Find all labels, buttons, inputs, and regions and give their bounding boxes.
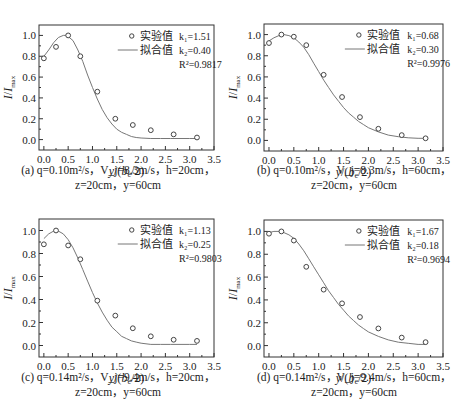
param-k2: k₂=0.30 xyxy=(407,44,439,55)
y-tick-label: 0.6 xyxy=(22,71,36,83)
legend-marker-icon xyxy=(357,33,361,37)
data-point-marker xyxy=(321,72,326,77)
param-k2: k₂=0.25 xyxy=(179,239,211,250)
legend-line-label: 拟合值 xyxy=(140,237,173,250)
data-point-marker xyxy=(399,133,404,138)
caption-b-line2: z=20cm，y=60cm xyxy=(236,178,472,193)
legend-marker-icon xyxy=(357,229,361,233)
y-tick-label: 0.2 xyxy=(247,317,261,329)
chart-panel-a: 0.00.51.01.52.02.53.03.50.00.20.40.60.81… xyxy=(1,25,222,179)
data-point-marker xyxy=(195,339,200,344)
data-point-marker xyxy=(78,54,83,59)
data-point-marker xyxy=(304,43,309,48)
y-tick-label: 1.0 xyxy=(247,225,261,237)
data-point-marker xyxy=(376,326,381,331)
data-point-marker xyxy=(291,238,296,243)
legend-points-label: 实验值 xyxy=(140,223,173,236)
param-r2: R²=0.9817 xyxy=(179,59,222,70)
data-point-marker xyxy=(148,128,153,133)
y-tick-label: 0.6 xyxy=(22,271,36,283)
data-point-marker xyxy=(376,126,381,131)
y-tick-label: 0.2 xyxy=(22,317,36,329)
y-tick-label: 0.8 xyxy=(22,50,36,62)
y-tick-label: 1.0 xyxy=(22,29,36,41)
param-k1: k₁=1.13 xyxy=(179,225,211,236)
param-k2: k₂=0.40 xyxy=(179,45,211,56)
chart-panel-d: 0.00.51.01.52.02.53.03.50.00.20.40.60.81… xyxy=(226,220,450,386)
y-tick-label: 0.0 xyxy=(22,340,36,352)
fitted-curve xyxy=(269,35,426,139)
param-r2: R²=0.9976 xyxy=(407,58,450,69)
y-tick-label: 0.0 xyxy=(247,134,261,146)
y-tick-label: 0.0 xyxy=(22,134,36,146)
data-point-marker xyxy=(304,264,309,269)
caption-d-line1: (d) q=0.14m²/s，V_j=9.4m/s，h=60cm， xyxy=(236,370,472,385)
data-point-marker xyxy=(148,334,153,339)
data-point-marker xyxy=(130,123,135,128)
y-tick-label: 0.4 xyxy=(247,92,261,104)
y-tick-label: 0.0 xyxy=(247,340,261,352)
data-point-marker xyxy=(54,228,59,233)
data-point-marker xyxy=(130,326,135,331)
y-axis-label: I/Imax xyxy=(1,276,17,301)
y-tick-label: 0.6 xyxy=(247,271,261,283)
y-tick-label: 0.8 xyxy=(247,50,261,62)
y-axis-label: I/Imax xyxy=(1,75,17,100)
y-tick-label: 0.6 xyxy=(247,71,261,83)
caption-d-line2: z=20cm，y=60cm xyxy=(236,385,472,400)
legend-points-label: 实验值 xyxy=(367,224,400,237)
legend-points-label: 实验值 xyxy=(140,29,173,42)
y-tick-label: 0.4 xyxy=(22,294,36,306)
param-r2: R²=0.9694 xyxy=(407,254,450,265)
fitted-curve xyxy=(44,35,197,138)
data-point-marker xyxy=(171,337,176,342)
data-point-marker xyxy=(41,242,46,247)
legend-points-label: 实验值 xyxy=(367,28,400,41)
caption-b: (b) q=0.10m²/s，V_j=8.3m/s，h=60cm， z=20cm… xyxy=(236,163,472,193)
chart-panel-c: 0.00.51.01.52.02.53.03.50.00.20.40.60.81… xyxy=(1,219,222,386)
data-point-marker xyxy=(279,229,284,234)
figure-canvas: 0.00.51.01.52.02.53.03.50.00.20.40.60.81… xyxy=(0,0,472,416)
y-axis-label: I/Imax xyxy=(226,75,242,100)
data-point-marker xyxy=(66,33,71,38)
y-tick-label: 0.4 xyxy=(247,294,261,306)
data-point-marker xyxy=(171,132,176,137)
y-tick-label: 0.8 xyxy=(22,248,36,260)
y-tick-label: 0.2 xyxy=(22,113,36,125)
data-point-marker xyxy=(113,116,118,121)
data-point-marker xyxy=(423,340,428,345)
y-tick-label: 0.2 xyxy=(247,113,261,125)
caption-a-line1: (a) q=0.10m²/s，V_j=8.3m/s，h=20cm， xyxy=(0,163,236,178)
data-point-marker xyxy=(340,301,345,306)
param-k2: k₂=0.18 xyxy=(407,240,439,251)
data-point-marker xyxy=(267,41,272,46)
y-tick-label: 1.0 xyxy=(247,29,261,41)
data-point-marker xyxy=(321,287,326,292)
caption-a-line2: z=20cm，y=60cm xyxy=(0,178,236,193)
data-point-marker xyxy=(399,335,404,340)
data-point-marker xyxy=(291,34,296,39)
data-point-marker xyxy=(358,315,363,320)
data-point-marker xyxy=(41,56,46,61)
data-point-marker xyxy=(54,44,59,49)
caption-c-line2: z=20cm，y=60cm xyxy=(0,385,236,400)
chart-panel-b: 0.00.51.01.52.02.53.03.50.00.20.40.60.81… xyxy=(226,24,450,180)
data-point-marker xyxy=(95,89,100,94)
data-point-marker xyxy=(113,313,118,318)
param-k1: k₁=1.51 xyxy=(179,31,211,42)
plot-frame xyxy=(39,25,214,150)
data-point-marker xyxy=(66,243,71,248)
y-tick-label: 1.0 xyxy=(22,225,36,237)
y-tick-label: 0.4 xyxy=(22,92,36,104)
caption-b-line1: (b) q=0.10m²/s，V_j=8.3m/s，h=60cm， xyxy=(236,163,472,178)
param-k1: k₁=1.67 xyxy=(407,226,439,237)
y-tick-label: 0.8 xyxy=(247,248,261,260)
legend-line-label: 拟合值 xyxy=(367,238,400,251)
legend-line-label: 拟合值 xyxy=(140,43,173,56)
caption-a: (a) q=0.10m²/s，V_j=8.3m/s，h=20cm， z=20cm… xyxy=(0,163,236,193)
data-point-marker xyxy=(267,231,272,236)
legend-marker-icon xyxy=(130,34,134,38)
data-point-marker xyxy=(279,32,284,37)
y-axis-label: I/Imax xyxy=(226,276,242,301)
data-point-marker xyxy=(195,135,200,140)
